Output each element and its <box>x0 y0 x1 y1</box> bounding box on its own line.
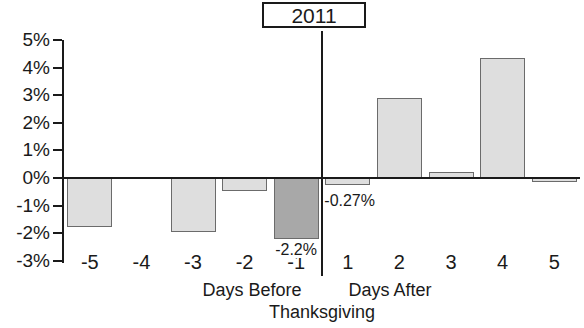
y-axis-tick <box>53 205 62 207</box>
bar-day-minus5 <box>67 178 112 227</box>
bar-day-2 <box>377 98 422 178</box>
chart-title: 2011 <box>291 5 336 26</box>
y-axis-labels: 5%4%3%2%1%0%-1%-2%-3% <box>0 0 50 328</box>
y-axis-tick <box>53 232 62 234</box>
x-axis-tick-label: 2 <box>377 252 421 272</box>
bar-day-1 <box>325 178 370 185</box>
y-axis-tick-label: 5% <box>0 30 50 49</box>
y-axis-tick-label: -3% <box>0 251 50 270</box>
bar-chart: 2011 5%4%3%2%1%0%-1%-2%-3% -5-4-3-2-1123… <box>0 0 584 328</box>
y-axis-tick-label: 3% <box>0 85 50 104</box>
bar-day-minus1 <box>274 178 319 239</box>
y-axis-line <box>62 40 64 263</box>
bar-day-minus2 <box>222 178 267 191</box>
x-axis-tick-label: 1 <box>326 252 370 272</box>
y-axis-tick-label: -1% <box>0 196 50 215</box>
x-axis-tick-label: -5 <box>68 252 112 272</box>
thanksgiving-divider-line <box>321 31 323 276</box>
y-axis-tick-label: 1% <box>0 140 50 159</box>
bar-value-label: -0.27% <box>324 193 375 209</box>
axis-group-label-event: Thanksgiving <box>232 303 412 321</box>
y-axis-tick-label: 2% <box>0 113 50 132</box>
y-axis-tick <box>53 67 62 69</box>
bar-day-minus3 <box>171 178 216 232</box>
y-axis-tick-label: -2% <box>0 223 50 242</box>
y-axis-tick <box>53 94 62 96</box>
x-axis-tick-label: 3 <box>429 252 473 272</box>
y-axis-tick-label: 4% <box>0 58 50 77</box>
chart-title-box: 2011 <box>262 2 366 28</box>
y-axis-tick-label: 0% <box>0 168 50 187</box>
x-axis-tick-label: -3 <box>171 252 215 272</box>
y-axis-tick <box>53 149 62 151</box>
axis-group-label-before: Days Before <box>182 281 322 299</box>
x-axis-tick-label: -4 <box>119 252 163 272</box>
x-axis-tick-label: 5 <box>532 252 576 272</box>
y-axis-tick <box>53 177 62 179</box>
y-axis-tick <box>53 39 62 41</box>
axis-group-label-after: Days After <box>325 281 455 299</box>
y-axis-tick <box>53 260 62 262</box>
bar-value-label: -2.2% <box>275 242 317 258</box>
bar-day-4 <box>480 58 525 178</box>
y-axis-tick <box>53 122 62 124</box>
x-axis-tick-label: -2 <box>223 252 267 272</box>
x-axis-tick-label: 4 <box>481 252 525 272</box>
